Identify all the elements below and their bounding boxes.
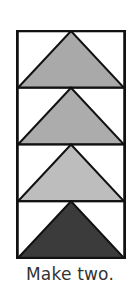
quilt-block-column bbox=[16, 30, 126, 259]
caption: Make two. bbox=[0, 264, 135, 284]
flying-geese-block bbox=[18, 201, 125, 258]
flying-geese-block bbox=[18, 31, 125, 88]
flying-geese-block bbox=[18, 145, 125, 202]
flying-geese-diagram bbox=[16, 30, 126, 259]
flying-geese-block bbox=[18, 88, 125, 145]
